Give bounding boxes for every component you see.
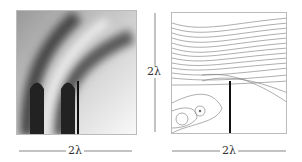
- flow-lines: [172, 13, 287, 134]
- left-scale-label: 2λ: [66, 145, 84, 157]
- right-scale-label-x: 2λ: [220, 145, 238, 157]
- flow-lines-panel: [171, 12, 287, 134]
- intensity-map: [17, 11, 137, 135]
- right-scale-label-y: 2λ: [145, 66, 163, 78]
- intensity-map-panel: [16, 10, 137, 135]
